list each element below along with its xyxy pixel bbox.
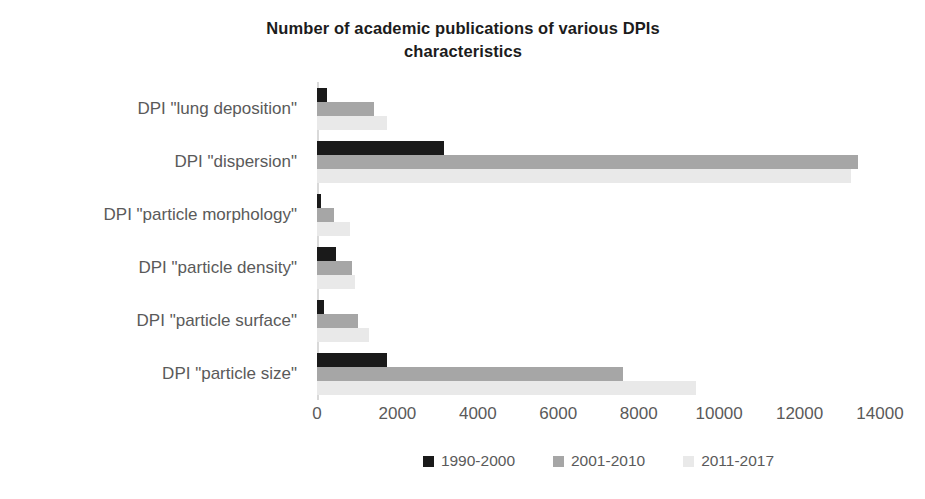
legend-label: 2001-2010 xyxy=(571,452,645,470)
bar-stack xyxy=(317,300,880,342)
bar-stack xyxy=(317,194,880,236)
chart-legend: 1990-20002001-20102011-2017 xyxy=(317,452,880,470)
legend-item[interactable]: 2001-2010 xyxy=(553,452,645,470)
bar-group xyxy=(317,82,880,135)
legend-item[interactable]: 2011-2017 xyxy=(683,452,774,470)
bar xyxy=(317,275,355,289)
bar xyxy=(317,194,321,208)
legend-swatch-icon xyxy=(553,456,564,467)
bar-group xyxy=(317,241,880,294)
x-axis-tick-labels: 02000400060008000100001200014000 xyxy=(317,404,880,430)
category-label: DPI "particle size" xyxy=(0,347,307,400)
bar xyxy=(317,222,350,236)
x-tick-label: 2000 xyxy=(379,404,417,424)
bar xyxy=(317,208,334,222)
category-label: DPI "particle density" xyxy=(0,241,307,294)
x-tick-label: 10000 xyxy=(696,404,743,424)
bar-group xyxy=(317,347,880,400)
bar-stack xyxy=(317,353,880,395)
legend-swatch-icon xyxy=(683,456,694,467)
category-label: DPI "lung deposition" xyxy=(0,82,307,135)
bar xyxy=(317,353,387,367)
x-tick-label: 6000 xyxy=(539,404,577,424)
bar xyxy=(317,314,358,328)
x-tick-label: 12000 xyxy=(776,404,823,424)
bar xyxy=(317,169,851,183)
bar xyxy=(317,300,324,314)
bar xyxy=(317,247,336,261)
legend-item[interactable]: 1990-2000 xyxy=(423,452,515,470)
x-tick-label: 0 xyxy=(312,404,321,424)
chart-title: Number of academic publications of vario… xyxy=(218,17,708,63)
bar-group xyxy=(317,188,880,241)
bar-group xyxy=(317,135,880,188)
bar xyxy=(317,328,369,342)
bar-chart: Number of academic publications of vario… xyxy=(0,0,925,499)
category-label: DPI "particle surface" xyxy=(0,294,307,347)
bar-stack xyxy=(317,247,880,289)
bar-stack xyxy=(317,88,880,130)
x-tick-label: 14000 xyxy=(856,404,903,424)
bar xyxy=(317,102,374,116)
category-label: DPI "dispersion" xyxy=(0,135,307,188)
plot-area xyxy=(317,82,880,400)
category-label: DPI "particle morphology" xyxy=(0,188,307,241)
category-axis-labels: DPI "lung deposition"DPI "dispersion"DPI… xyxy=(0,82,307,400)
bar-group xyxy=(317,294,880,347)
bar xyxy=(317,155,858,169)
legend-label: 1990-2000 xyxy=(441,452,515,470)
bar xyxy=(317,261,352,275)
bar xyxy=(317,381,696,395)
bar xyxy=(317,116,387,130)
bar xyxy=(317,367,623,381)
x-tick-label: 4000 xyxy=(459,404,497,424)
x-tick-label: 8000 xyxy=(620,404,658,424)
bar xyxy=(317,88,327,102)
bar-stack xyxy=(317,141,880,183)
legend-swatch-icon xyxy=(423,456,434,467)
bar-groups xyxy=(317,82,880,400)
bar xyxy=(317,141,444,155)
legend-label: 2011-2017 xyxy=(701,452,774,470)
